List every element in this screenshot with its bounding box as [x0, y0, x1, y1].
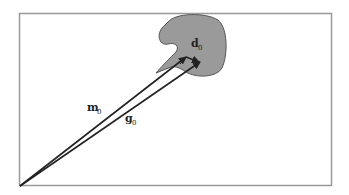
- label-m-subscript: 0: [97, 108, 101, 116]
- diagram-canvas: m 0 g 0 d 0: [0, 0, 349, 195]
- vector-m0: [20, 57, 186, 186]
- label-g-subscript: 0: [132, 119, 136, 127]
- vector-g0: [20, 62, 200, 186]
- label-d-subscript: 0: [198, 44, 202, 52]
